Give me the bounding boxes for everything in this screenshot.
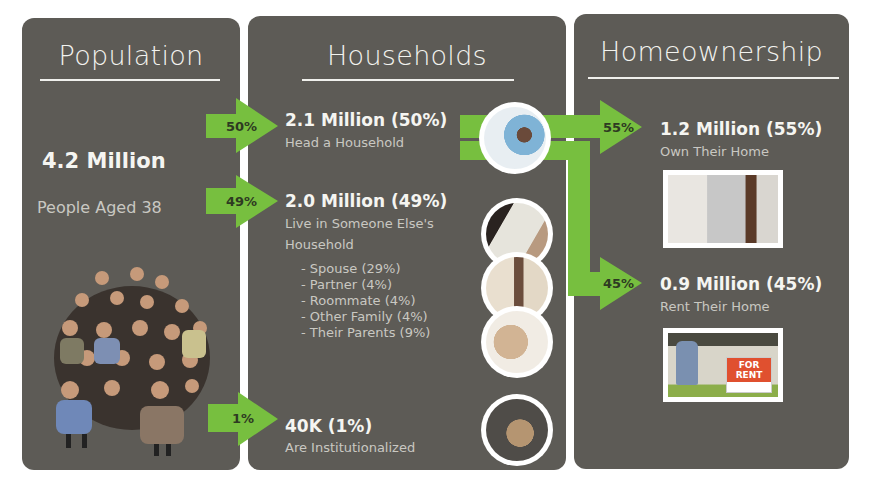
woman-portrait-photo xyxy=(479,102,551,174)
for-rent-sign: FOR RENT xyxy=(726,357,772,393)
arrow-label-1: 1% xyxy=(232,411,254,426)
handcuffs-photo xyxy=(481,394,553,466)
sign-line-for: FOR xyxy=(727,360,771,370)
family-photo xyxy=(481,306,553,378)
person-silhouette xyxy=(676,341,698,385)
arrow-label-50: 50% xyxy=(226,119,257,134)
arrow-label-45: 45% xyxy=(603,276,634,291)
couple-with-keys-photo xyxy=(663,170,783,248)
arrow-label-49: 49% xyxy=(226,194,257,209)
sign-line-rent: RENT xyxy=(727,370,771,380)
arrow-label-55: 55% xyxy=(603,120,634,135)
for-rent-sign-photo: FOR RENT xyxy=(663,328,783,402)
